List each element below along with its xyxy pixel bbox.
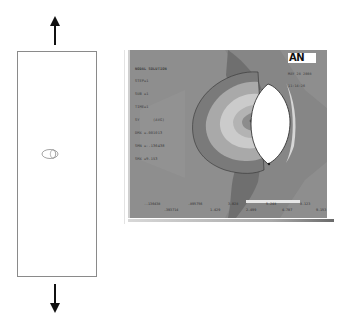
legend-value: -.136438 <box>144 202 160 206</box>
fea-contour-plot: NODAL SOLUTION STEP=1 SUB =1 TIME=1 SY (… <box>128 50 327 218</box>
panel-shadow <box>128 219 334 222</box>
legend-value: .393714 <box>164 208 178 212</box>
legend-value: 8.123 <box>300 202 310 206</box>
contour-legend: -.136438 .895756 3.028 5.248 8.123 .3937… <box>136 198 326 216</box>
plot-date: MAY 28 2008 <box>288 72 312 76</box>
plot-timestamp: MAY 28 2008 11:14:26 <box>288 64 312 96</box>
info-line: SMX =9.153 <box>135 157 167 161</box>
legend-row-bottom: .393714 1.429 2.499 4.707 9.153 <box>136 208 326 212</box>
legend-value: 1.429 <box>210 208 220 212</box>
plot-title: NODAL SOLUTION <box>135 67 167 71</box>
software-logo: AN <box>288 53 316 63</box>
legend-value: 3.028 <box>228 202 238 206</box>
plot-info-block: NODAL SOLUTION STEP=1 SUB =1 TIME=1 SY (… <box>135 58 167 170</box>
info-line: STEP=1 <box>135 79 167 83</box>
tension-arrow-up-icon <box>48 16 62 46</box>
info-line: TIME=1 <box>135 105 167 109</box>
info-line: SUB =1 <box>135 92 167 96</box>
elliptical-hole-icon <box>40 146 64 160</box>
legend-value: 4.707 <box>282 208 292 212</box>
info-line: SMN =-.136438 <box>135 144 167 148</box>
legend-row-top: -.136438 .895756 3.028 5.248 8.123 <box>136 202 326 206</box>
tension-arrow-down-icon <box>48 283 62 313</box>
info-line: DMX =.001013 <box>135 131 167 135</box>
plot-time: 11:14:26 <box>288 84 312 88</box>
logo-text: AN <box>289 52 304 63</box>
legend-value: 5.248 <box>266 202 276 206</box>
info-line: SY (AVG) <box>135 118 167 122</box>
legend-value: 9.153 <box>316 208 326 212</box>
panel-left-rule <box>124 50 125 224</box>
plate-specimen <box>17 51 97 277</box>
legend-value: .895756 <box>188 202 202 206</box>
legend-value: 2.499 <box>246 208 256 212</box>
